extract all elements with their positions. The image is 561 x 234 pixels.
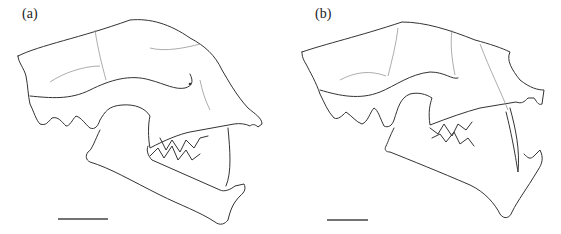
skull-drawing-b xyxy=(280,0,561,234)
panel-b: (b) xyxy=(280,0,561,234)
panel-a: (a) xyxy=(0,0,280,234)
skull-drawing-a xyxy=(0,0,280,234)
